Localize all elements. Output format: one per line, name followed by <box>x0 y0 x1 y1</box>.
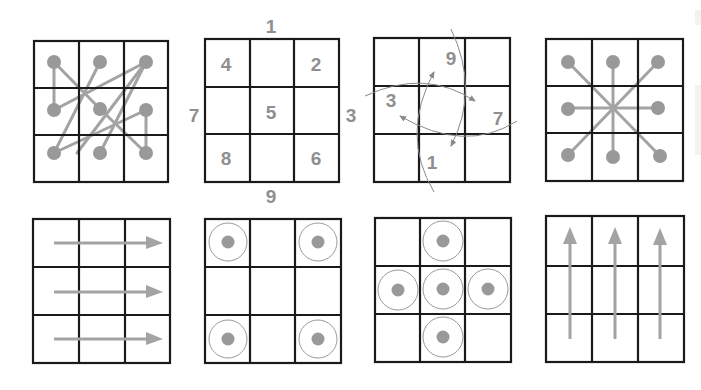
page-edge <box>695 10 701 25</box>
panel-cross-targets <box>374 217 512 363</box>
cell-label-top-left: 4 <box>221 54 232 75</box>
label-left: 7 <box>189 105 200 126</box>
right-arrow-icon <box>54 285 163 298</box>
cell-label-center: 5 <box>266 102 277 123</box>
horizontal-arrows-diagram <box>32 218 171 364</box>
right-arrow-icon <box>54 332 163 345</box>
panel-zigzag-path <box>33 40 169 183</box>
cell-label-bottom-right: 6 <box>311 148 322 169</box>
label-bottom: 9 <box>266 186 277 207</box>
right-arrow-icon <box>54 236 163 249</box>
panel-horizontal-arrows <box>32 218 171 364</box>
rotation-label-1: 1 <box>427 152 438 173</box>
panel-magic-square: 1 7 3 9 4 2 5 8 6 <box>186 12 366 202</box>
up-arrow-icon <box>563 227 577 339</box>
up-arrow-icon <box>608 227 622 339</box>
magic-square-diagram: 1 7 3 9 4 2 5 8 6 <box>186 12 366 202</box>
panel-star-radial <box>545 38 684 182</box>
panel-vertical-arrows <box>545 215 685 363</box>
rotation-label-7: 7 <box>493 108 504 129</box>
zigzag-grid-diagram <box>33 40 169 183</box>
label-top: 1 <box>266 16 277 37</box>
rotation-label-9: 9 <box>446 48 457 69</box>
page-edge <box>695 85 701 155</box>
panel-corner-targets <box>204 218 342 364</box>
rotation-diagram: 9 3 7 1 <box>355 20 535 200</box>
up-arrow-icon <box>653 228 667 339</box>
cell-label-top-right: 2 <box>311 54 322 75</box>
corner-targets-diagram <box>204 218 342 364</box>
vertical-arrows-diagram <box>545 215 685 363</box>
panel-circular-rotation: 9 3 7 1 <box>355 20 535 200</box>
star-diagram <box>545 38 684 182</box>
cross-targets-diagram <box>374 217 512 363</box>
cell-label-bottom-left: 8 <box>221 148 232 169</box>
rotation-label-3: 3 <box>386 90 397 111</box>
